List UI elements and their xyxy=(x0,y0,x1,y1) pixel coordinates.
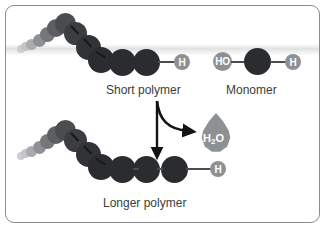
water-formula-label: H2O xyxy=(203,132,224,146)
diagram-stage: H Short polymer HO H Monomer xyxy=(0,0,325,228)
dehydration-synthesis-figure: H Short polymer HO H Monomer xyxy=(0,0,325,228)
water-h: H xyxy=(203,132,211,144)
longer-polymer-label: Longer polymer xyxy=(103,196,186,210)
bond-to-hydrogen xyxy=(186,168,212,170)
bond-between-front-units xyxy=(157,168,163,170)
reaction-arrows xyxy=(0,0,325,228)
hydrogen-cap-longer-polymer: H xyxy=(210,161,226,177)
water-o: O xyxy=(215,132,224,144)
bond-between-front-units xyxy=(133,168,139,170)
byproduct-curved-arrow xyxy=(157,101,188,131)
polymer-unit-front-added xyxy=(161,156,188,183)
polymer-unit-front xyxy=(109,156,136,183)
